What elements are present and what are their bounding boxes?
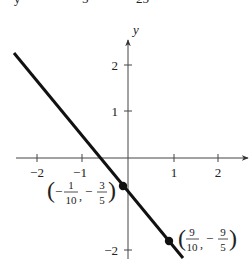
- svg-text:−: −: [206, 231, 213, 246]
- svg-text:−: −: [55, 184, 62, 199]
- x-tick-label: −1: [73, 165, 87, 180]
- svg-text:5: 5: [99, 194, 105, 206]
- y-axis-label: y: [131, 22, 139, 37]
- svg-text:,: ,: [200, 237, 203, 251]
- svg-text:9: 9: [189, 226, 195, 238]
- y-tick-label: −2: [104, 243, 118, 258]
- svg-text:(: (: [178, 225, 186, 251]
- data-line: [14, 53, 183, 258]
- x-tick-label: −2: [30, 165, 44, 180]
- svg-text:,: ,: [79, 189, 82, 203]
- svg-text:): ): [229, 225, 237, 251]
- point-marker-1: [119, 182, 127, 190]
- point-marker-2: [165, 237, 173, 245]
- annotation-point-2: ( 9 10 , − 9 5 ): [178, 225, 237, 253]
- svg-text:10: 10: [187, 241, 199, 253]
- y-tick-label: 2: [112, 58, 119, 73]
- line-chart: −2 −1 1 2 2 1 −2 y ( − 1 10 , − 3 5 ) ( …: [0, 0, 252, 259]
- svg-text:10: 10: [66, 194, 78, 206]
- svg-text:1: 1: [68, 179, 74, 191]
- x-tick-labels: −2 −1 1 2: [30, 165, 221, 180]
- annotation-point-1: ( − 1 10 , − 3 5 ): [47, 177, 116, 206]
- svg-text:9: 9: [220, 226, 226, 238]
- svg-text:3: 3: [99, 179, 105, 191]
- svg-text:5: 5: [220, 241, 226, 253]
- x-tick-label: 1: [171, 165, 178, 180]
- y-tick-label: 1: [112, 104, 119, 119]
- x-tick-label: 2: [215, 165, 222, 180]
- svg-text:−: −: [85, 184, 92, 199]
- svg-text:): ): [108, 177, 116, 203]
- svg-text:(: (: [47, 177, 55, 203]
